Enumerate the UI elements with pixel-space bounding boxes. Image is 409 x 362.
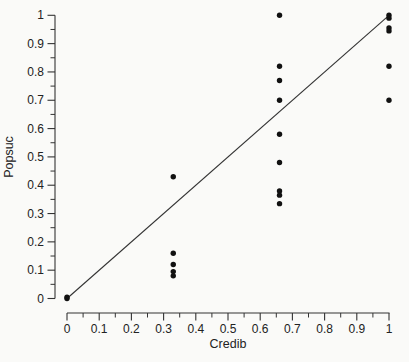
x-tick-label: 0.2 [123,322,140,336]
x-axis-title: Credib [210,337,247,351]
data-point [277,13,282,18]
y-tick-label: 0.9 [27,37,44,51]
y-tick-label: 1 [37,8,44,22]
x-tick-label: 0.6 [252,322,269,336]
data-point [64,294,69,299]
x-tick-label: 0.3 [155,322,172,336]
data-point [386,98,391,103]
data-point [386,28,391,33]
scatter-plot-canvas: 00.10.20.30.40.50.60.70.80.9100.10.20.30… [0,0,409,362]
y-axis-title: Popsuc [2,136,16,178]
data-point [277,78,282,83]
y-tick-label: 0.8 [27,65,44,79]
data-point [386,15,391,20]
x-tick-label: 0.9 [348,322,365,336]
data-point [386,64,391,69]
x-tick-label: 0.7 [284,322,301,336]
y-tick-label: 0.4 [27,178,44,192]
x-tick-label: 0.4 [187,322,204,336]
y-tick-label: 0 [37,292,44,306]
x-tick-label: 1 [386,322,393,336]
y-tick-label: 0.6 [27,122,44,136]
data-point [277,160,282,165]
data-point [171,174,176,179]
data-point [171,262,176,267]
data-layer [64,13,391,302]
fit-line [67,15,389,298]
data-point [277,98,282,103]
data-point [277,64,282,69]
x-tick-label: 0.8 [316,322,333,336]
y-tick-label: 0.2 [27,235,44,249]
data-point [277,192,282,197]
x-tick-label: 0.5 [220,322,237,336]
x-tick-label: 0 [64,322,71,336]
y-tick-label: 0.7 [27,93,44,107]
data-point [171,250,176,255]
scatter-plot-figure: 00.10.20.30.40.50.60.70.80.9100.10.20.30… [0,0,409,362]
data-point [171,273,176,278]
y-tick-label: 0.3 [27,207,44,221]
y-tick-label: 0.1 [27,263,44,277]
data-point [277,201,282,206]
data-point [277,132,282,137]
x-tick-label: 0.1 [91,322,108,336]
y-tick-label: 0.5 [27,150,44,164]
